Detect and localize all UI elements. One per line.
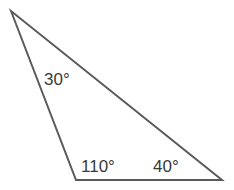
triangle (11, 11, 222, 180)
angle-label-top: 30° (44, 70, 70, 89)
angle-label-bottom-left: 110° (81, 157, 115, 176)
triangle-diagram: 30° 110° 40° (0, 0, 234, 190)
angle-label-bottom-right: 40° (153, 157, 179, 176)
